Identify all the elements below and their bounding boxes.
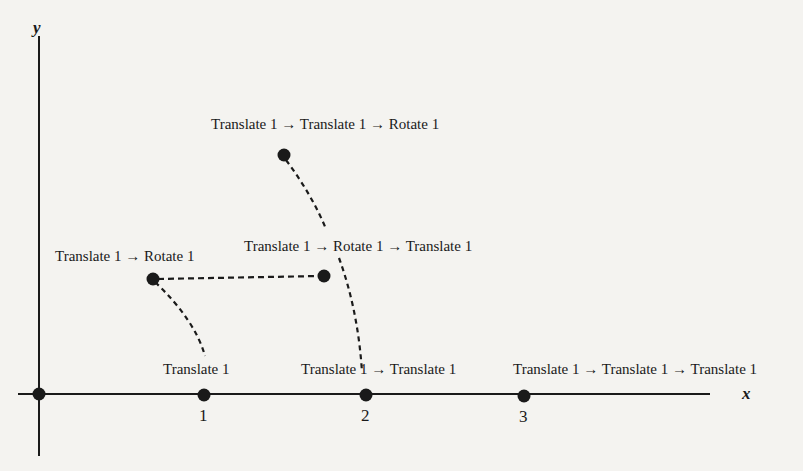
tick-label-2: 2 [361, 407, 370, 424]
label-translate: Translate 1 [163, 362, 230, 377]
point-x1 [198, 389, 211, 402]
dashed-path-translate-after-rotate [158, 276, 320, 279]
coordinate-diagram [0, 0, 803, 471]
tick-label-1: 1 [199, 407, 208, 424]
label-translate-rotate: Translate 1 → Rotate 1 [55, 249, 194, 264]
y-axis-label: y [33, 19, 41, 36]
point-origin [33, 388, 46, 401]
label-translate-rotate-translate: Translate 1 → Rotate 1 → Translate 1 [244, 239, 472, 254]
point-translate-rotate-translate [318, 270, 331, 283]
point-x2 [360, 389, 373, 402]
dashed-path-rotate-from-translate2-upper [286, 160, 326, 229]
label-translate-translate-rotate: Translate 1 → Translate 1 → Rotate 1 [211, 117, 439, 132]
x-axis-label: x [742, 385, 751, 402]
tick-label-3: 3 [519, 408, 528, 425]
dashed-path-rotate-from-translate2-lower [339, 258, 362, 372]
label-translate-translate-translate: Translate 1 → Translate 1 → Translate 1 [513, 362, 757, 377]
label-translate-translate: Translate 1 → Translate 1 [301, 362, 456, 377]
point-translate-translate-rotate [278, 149, 291, 162]
dashed-path-rotate-from-translate1 [155, 282, 205, 356]
point-translate-rotate [147, 273, 160, 286]
point-x3 [518, 390, 531, 403]
